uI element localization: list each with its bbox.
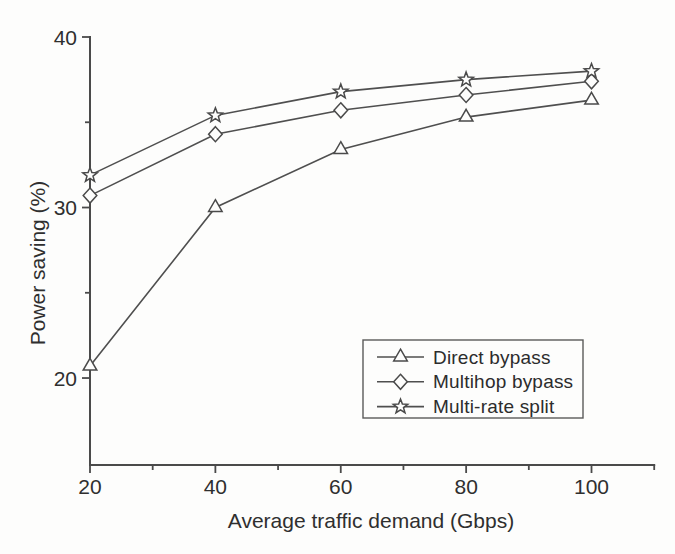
power-saving-line-chart: 20304020406080100Direct bypassMultihop b… bbox=[0, 0, 675, 554]
triangle-marker-icon bbox=[459, 109, 473, 121]
diamond-marker-icon bbox=[83, 188, 97, 203]
star-marker-icon bbox=[459, 72, 474, 86]
triangle-marker-icon bbox=[585, 92, 599, 104]
x-tick-label: 100 bbox=[574, 475, 609, 498]
x-tick-label: 20 bbox=[78, 475, 101, 498]
y-tick-label: 30 bbox=[54, 196, 77, 219]
x-axis-title: Average traffic demand (Gbps) bbox=[228, 509, 514, 532]
x-tick-label: 40 bbox=[204, 475, 227, 498]
diamond-marker-icon bbox=[334, 103, 348, 118]
y-tick-label: 40 bbox=[54, 26, 77, 49]
y-axis-title: Power saving (%) bbox=[26, 181, 49, 346]
diamond-marker-icon bbox=[209, 127, 223, 142]
legend-label-multi-rate-split: Multi-rate split bbox=[433, 396, 555, 417]
diamond-marker-icon bbox=[459, 88, 473, 103]
legend-label-multihop-bypass: Multihop bypass bbox=[433, 371, 573, 392]
figure-page: 20304020406080100Direct bypassMultihop b… bbox=[0, 0, 675, 554]
chart-generated-layer: 20304020406080100Direct bypassMultihop b… bbox=[54, 26, 655, 499]
star-marker-icon bbox=[208, 108, 223, 122]
star-marker-icon bbox=[334, 84, 349, 98]
y-tick-label: 20 bbox=[54, 367, 77, 390]
legend-label-direct-bypass: Direct bypass bbox=[433, 347, 551, 368]
x-tick-label: 80 bbox=[454, 475, 477, 498]
x-tick-label: 60 bbox=[329, 475, 352, 498]
